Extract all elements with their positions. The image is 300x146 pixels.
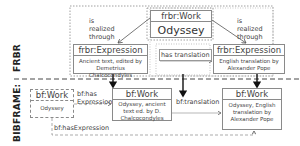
node-description: Ancient text, edited by Demetrius Chalco…	[74, 56, 147, 79]
bibframe-section-label: BIBFRAME:	[12, 83, 22, 142]
bf-work-source-node: bf:Work Odyssey	[30, 89, 74, 118]
relation-bf-has-expression: bf:has Expression	[77, 90, 113, 106]
node-type: frbr:Work	[151, 11, 211, 22]
node-description: Odyssey, English translation by Alexande…	[223, 100, 281, 123]
node-type: frbr:Expression	[214, 45, 284, 56]
node-type: bf:Work	[223, 89, 281, 100]
relation-has-translation: has translation	[159, 49, 212, 61]
frbr-work-node: frbr:Work Odyssey	[150, 10, 212, 38]
node-title: Odyssey	[31, 101, 73, 112]
node-type: frbr:Expression	[74, 45, 147, 56]
node-description: Odyssey, ancient text ed. by D. Chalcoco…	[113, 100, 171, 122]
relation-bf-translation: bf:translation	[176, 98, 219, 106]
node-type: bf:Work	[31, 90, 73, 101]
relation-is-realized-through-right: is realized through	[237, 17, 269, 41]
frbr-expression-english-node: frbr:Expression English translation by A…	[213, 44, 285, 74]
node-title: Odyssey	[151, 22, 211, 39]
bf-work-ancient-node: bf:Work Odyssey, ancient text ed. by D. …	[112, 88, 172, 121]
bf-work-english-node: bf:Work Odyssey, English translation by …	[222, 88, 282, 130]
node-type: bf:Work	[113, 89, 171, 100]
relation-bf-hasexpression-bottom: bf:hasExpression	[54, 124, 109, 132]
relation-is-realized-through-left: is realized through	[89, 17, 119, 41]
node-description: English translation by Alexander Pope	[214, 56, 284, 72]
frbr-expression-ancient-node: frbr:Expression Ancient text, edited by …	[73, 44, 148, 74]
frbr-section-label: FRBR	[12, 44, 22, 72]
